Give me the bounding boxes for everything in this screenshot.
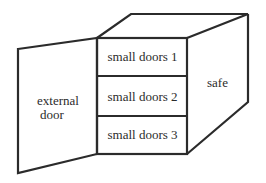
compartment-label-1: small doors 1	[98, 50, 187, 64]
safe-top-face	[97, 14, 248, 38]
compartment-label-2: small doors 2	[98, 90, 187, 104]
compartment-label-3: small doors 3	[98, 128, 187, 142]
safe-diagram: small doors 1 small doors 2 small doors …	[0, 0, 266, 183]
safe-label: safe	[207, 76, 228, 90]
external-door-label-line2: door	[40, 108, 64, 122]
external-door-label-line1: external	[37, 94, 79, 108]
